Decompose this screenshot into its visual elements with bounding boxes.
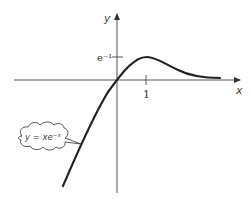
graph-svg: y x 1 e⁻¹ y = xe⁻ˣ bbox=[0, 0, 251, 203]
function-curve bbox=[63, 57, 220, 186]
x-axis-label: x bbox=[235, 84, 243, 97]
callout-cloud: y = xe⁻ˣ bbox=[18, 122, 81, 150]
function-graph: y x 1 e⁻¹ y = xe⁻ˣ bbox=[0, 0, 251, 203]
y-axis-label: y bbox=[103, 12, 111, 25]
callout-label: y = xe⁻ˣ bbox=[24, 132, 61, 142]
x-tick-label: 1 bbox=[143, 88, 150, 101]
y-tick-label: e⁻¹ bbox=[97, 52, 112, 63]
